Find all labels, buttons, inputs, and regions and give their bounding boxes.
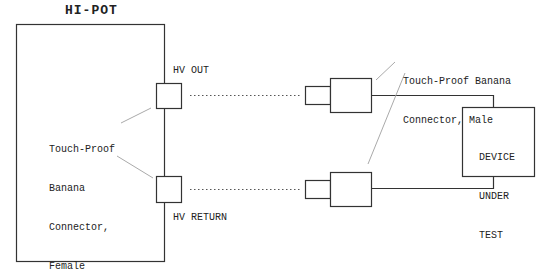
female-label-line-1: Touch-Proof	[49, 143, 115, 156]
female-connector-hv-out	[157, 84, 182, 109]
hipot-title: HI-POT	[65, 4, 118, 17]
dut-label-line-2: UNDER	[479, 190, 515, 203]
hv-return-label: HV RETURN	[173, 211, 227, 224]
female-label-line-3: Connector,	[49, 221, 115, 234]
dut-label-line-3: TEST	[479, 229, 515, 242]
leader-male-lower	[368, 73, 405, 164]
female-connector-hv-return	[157, 177, 182, 203]
female-label-line-2: Banana	[49, 182, 115, 195]
dut-label: DEVICE UNDER TEST	[479, 125, 515, 255]
male-connector-body-upper	[331, 79, 372, 113]
wire-hv-return	[371, 176, 494, 189]
dut-label-line-1: DEVICE	[479, 151, 515, 164]
male-label-line-1: Touch-Proof Banana	[403, 75, 511, 88]
leader-male-upper	[376, 62, 395, 80]
hv-out-label: HV OUT	[173, 64, 209, 77]
leader-female-upper	[121, 108, 151, 123]
female-connector-label: Touch-Proof Banana Connector, Female	[49, 117, 115, 272]
male-connector-plug-lower	[306, 181, 331, 199]
male-connector-body-lower	[331, 173, 372, 207]
female-label-line-4: Female	[49, 260, 115, 272]
male-connector-plug-upper	[306, 87, 331, 105]
leader-female-lower	[117, 156, 153, 178]
